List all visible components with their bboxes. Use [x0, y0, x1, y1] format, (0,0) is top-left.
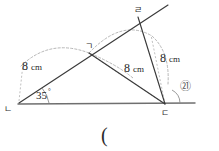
- caption-paren: (: [101, 124, 108, 147]
- angle-label-n: 35 °: [36, 87, 51, 101]
- geometry-figure: ㄴ ㄱ ㄷ ㄹ 8 cm 8 cm 8 cm 35 ° ㉑ (: [0, 0, 219, 151]
- length-unit-d-r: cm: [169, 54, 180, 64]
- length-value-n-g: 8: [22, 59, 28, 73]
- length-label-d-r: 8 cm: [160, 51, 180, 65]
- angle-degree-symbol-n: °: [48, 87, 51, 95]
- length-unit-d-g: cm: [133, 64, 144, 74]
- angle-value-n: 35: [36, 89, 48, 101]
- angle-arc-d: [172, 90, 180, 103]
- geometry-canvas: ㄴ ㄱ ㄷ ㄹ 8 cm 8 cm 8 cm 35 ° ㉑ (: [0, 0, 219, 151]
- vertex-label-r: ㄹ: [134, 5, 142, 15]
- length-value-d-r: 8: [160, 51, 166, 65]
- length-value-d-g: 8: [124, 61, 130, 75]
- length-label-d-g: 8 cm: [124, 61, 144, 75]
- vertex-label-n: ㄴ: [4, 104, 12, 114]
- vertex-label-g: ㄱ: [85, 41, 93, 51]
- vertex-label-d: ㄷ: [161, 108, 169, 118]
- base-line-n-d: [18, 103, 195, 104]
- length-unit-n-g: cm: [31, 62, 42, 72]
- length-label-n-g: 8 cm: [22, 59, 42, 73]
- dashed-radius-d-r: [151, 35, 165, 104]
- circled-angle-mark-d: ㉑: [180, 80, 191, 93]
